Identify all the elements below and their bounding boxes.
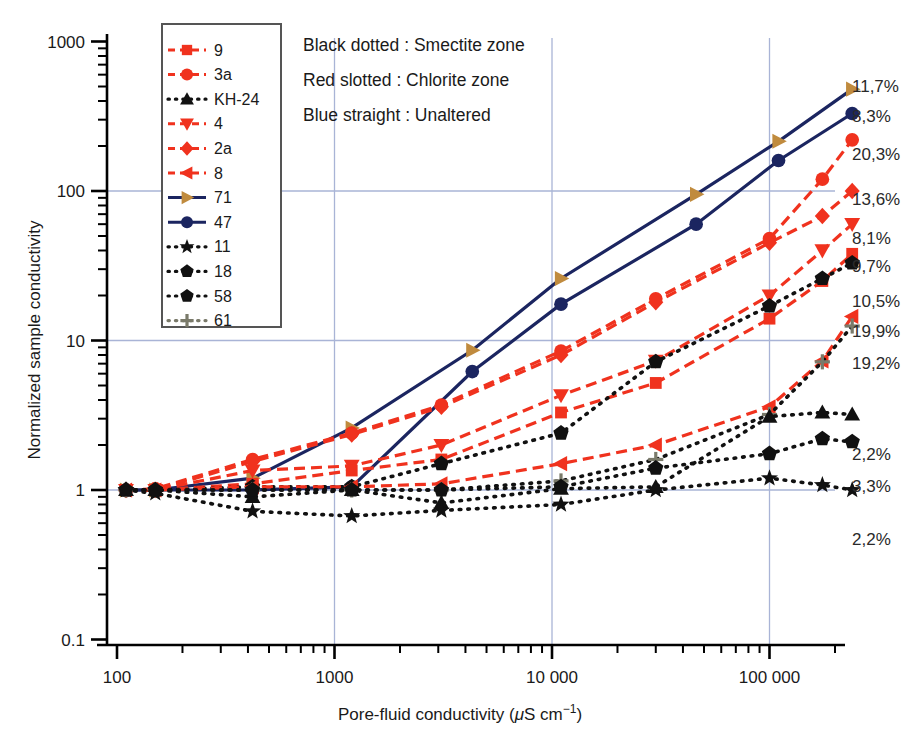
y-tick-label: 0.1 bbox=[61, 631, 85, 650]
percent-label-58: 10,5% bbox=[852, 292, 900, 311]
percent-label-71: 11,7% bbox=[852, 77, 899, 96]
data-point-square bbox=[764, 313, 776, 325]
legend-label: 71 bbox=[214, 189, 232, 206]
legend[interactable]: 93aKH-2442a8714711185861 bbox=[162, 24, 281, 329]
percent-label-18: 3,3% bbox=[852, 477, 891, 496]
right-percent-labels: 11,7%8,3%20,3%13,6%8,1%9,7%10,5%19,9%19,… bbox=[852, 77, 900, 549]
data-point-star bbox=[647, 481, 664, 497]
data-point-pentagon-dark bbox=[815, 270, 830, 285]
data-point-triangle-up bbox=[844, 407, 860, 421]
x-tick-label: 100 000 bbox=[739, 668, 800, 687]
series-61 bbox=[118, 318, 859, 497]
x-tick-label: 100 bbox=[103, 668, 131, 687]
legend-label: 61 bbox=[214, 312, 232, 329]
data-point-circle bbox=[554, 297, 568, 311]
percent-label-9: 9,7% bbox=[852, 257, 891, 276]
x-axis-title: Pore-fluid conductivity (μS cm−1) bbox=[338, 702, 582, 724]
legend-label: 4 bbox=[214, 115, 223, 132]
percent-label-3a: 20,3% bbox=[852, 145, 900, 164]
data-point-star bbox=[343, 507, 360, 523]
data-point-diamond-circle bbox=[816, 172, 830, 186]
data-point-square bbox=[346, 465, 358, 477]
data-point-pentagon-dark bbox=[762, 298, 777, 313]
series-KH-24 bbox=[118, 405, 860, 509]
data-point-triangle-down bbox=[814, 244, 830, 258]
legend-label: 11 bbox=[214, 238, 231, 255]
percent-label-11: 2,2% bbox=[852, 530, 891, 549]
legend-notes: Black dotted : Smectite zoneRed slotted … bbox=[303, 35, 525, 125]
tick-labels: 0.11101001000100100010 000100 000 bbox=[47, 33, 800, 688]
data-point-square bbox=[555, 407, 567, 419]
legend-label: 8 bbox=[214, 165, 223, 182]
percent-label-4: 8,1% bbox=[852, 229, 891, 248]
y-tick-label: 1000 bbox=[47, 33, 85, 52]
legend-label: 9 bbox=[214, 42, 223, 59]
data-point-circle bbox=[465, 365, 479, 379]
data-point-pentagon bbox=[815, 431, 830, 446]
data-point-circle bbox=[181, 216, 193, 228]
data-point-star bbox=[552, 495, 569, 511]
y-tick-label: 100 bbox=[57, 182, 85, 201]
data-point-star bbox=[244, 502, 261, 518]
data-point-circle bbox=[772, 154, 786, 168]
data-point-diamond-circle bbox=[181, 69, 193, 81]
y-axis-title: Normalized sample conductivity bbox=[25, 220, 44, 460]
data-point-square bbox=[182, 45, 192, 55]
percent-label-8: 19,9% bbox=[852, 322, 900, 341]
data-point-diamond bbox=[815, 208, 830, 225]
conductivity-log-log-chart: 0.11101001000100100010 000100 000Normali… bbox=[0, 0, 915, 742]
data-point-circle bbox=[689, 217, 703, 231]
legend-label: 58 bbox=[214, 288, 232, 305]
data-point-star bbox=[433, 501, 450, 517]
data-point-pentagon bbox=[762, 446, 777, 461]
legend-label: 2a bbox=[214, 140, 232, 157]
percent-label-KH-24: 2,2% bbox=[852, 445, 891, 464]
data-point-square bbox=[650, 377, 662, 389]
data-point-triangle-left bbox=[553, 456, 567, 471]
y-tick-label: 1 bbox=[76, 481, 85, 500]
note-line: Red slotted : Chlorite zone bbox=[303, 70, 509, 90]
legend-label: KH-24 bbox=[214, 91, 259, 108]
x-tick-label: 1000 bbox=[316, 668, 354, 687]
note-line: Blue straight : Unaltered bbox=[303, 105, 491, 125]
percent-label-61: 19,2% bbox=[852, 354, 900, 373]
percent-label-2a: 13,6% bbox=[852, 190, 900, 209]
chart-figure: 0.11101001000100100010 000100 000Normali… bbox=[0, 0, 915, 742]
data-point-triangle-left bbox=[647, 437, 661, 452]
y-tick-label: 10 bbox=[66, 332, 85, 351]
legend-label: 18 bbox=[214, 263, 232, 280]
legend-label: 47 bbox=[214, 214, 232, 231]
x-tick-label: 10 000 bbox=[526, 668, 578, 687]
note-line: Black dotted : Smectite zone bbox=[303, 35, 525, 55]
percent-label-47: 8,3% bbox=[852, 107, 891, 126]
legend-label: 3a bbox=[214, 66, 232, 83]
